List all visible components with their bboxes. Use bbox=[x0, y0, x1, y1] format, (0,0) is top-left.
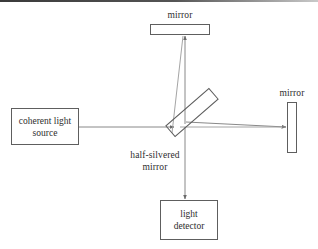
coherent-light-source-box: coherent light source bbox=[11, 108, 79, 145]
mirror-right-label: mirror bbox=[262, 88, 318, 100]
source-label-line1: coherent light bbox=[12, 115, 78, 127]
mirror-top-label: mirror bbox=[150, 10, 210, 22]
detector-label-line1: light bbox=[161, 208, 217, 220]
detector-label-line2: detector bbox=[161, 220, 217, 232]
splitter-label-line2: mirror bbox=[105, 162, 205, 174]
beam-splitter-to-right-mirror bbox=[186, 122, 286, 127]
half-silvered-mirror-label: half-silvered mirror bbox=[105, 150, 205, 173]
diagram-canvas: mirror mirror coherent light source half… bbox=[0, 0, 318, 249]
mirror-top bbox=[150, 24, 210, 35]
source-label-line2: source bbox=[12, 127, 78, 139]
splitter-label-line1: half-silvered bbox=[105, 150, 205, 162]
light-detector-box: light detector bbox=[160, 200, 218, 240]
mirror-right bbox=[287, 102, 297, 153]
